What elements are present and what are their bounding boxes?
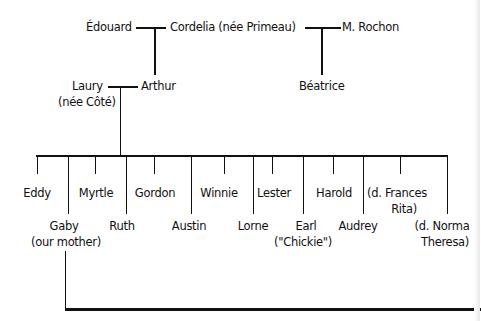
child-frances: (d. Frances (367, 186, 427, 200)
person-cordelia: Cordelia (née Primeau) (170, 20, 296, 34)
drop-austin (191, 155, 193, 214)
page-edge-shadow (474, 0, 480, 321)
drop-ruth (126, 155, 128, 214)
person-edouard: Édouard (86, 20, 132, 34)
drop-eddy (37, 155, 39, 174)
drop-norma (447, 155, 449, 214)
child-earl: Earl (295, 219, 316, 233)
sibling-bar (36, 155, 448, 157)
child-austin: Austin (172, 219, 206, 233)
child-norma-note: Theresa) (421, 235, 469, 249)
person-arthur: Arthur (141, 79, 176, 93)
child-lorne: Lorne (238, 219, 269, 233)
child-lester: Lester (257, 186, 291, 200)
person-laury-maiden: (née Côté) (58, 95, 116, 109)
descent-line-beatrice (321, 27, 323, 75)
drop-gordon (154, 155, 156, 174)
child-frances-note: Rita) (391, 202, 417, 216)
drop-frances (400, 155, 402, 174)
marriage-line-laury-arthur (108, 86, 138, 88)
child-gaby: Gaby (50, 219, 79, 233)
child-myrtle: Myrtle (79, 186, 113, 200)
drop-lester (272, 155, 274, 174)
drop-winnie (224, 155, 226, 174)
child-gordon: Gordon (135, 186, 175, 200)
person-beatrice: Béatrice (299, 79, 344, 93)
person-laury: Laury (72, 79, 103, 93)
marriage-line-edouard-cordelia (136, 27, 166, 29)
drop-audrey (363, 155, 365, 214)
gaby-descent-line (65, 251, 67, 310)
descent-line-arthur (154, 27, 156, 75)
marriage-line-cordelia-rochon (305, 27, 341, 29)
child-earl-note: ("Chickie") (274, 235, 332, 249)
child-ruth: Ruth (109, 219, 134, 233)
drop-harold (333, 155, 335, 174)
drop-gaby (68, 155, 70, 214)
child-norma: (d. Norma (415, 219, 470, 233)
person-m-rochon: M. Rochon (342, 20, 399, 34)
child-harold: Harold (316, 186, 352, 200)
drop-earl (303, 155, 305, 214)
child-gaby-note: (our mother) (31, 235, 101, 249)
child-audrey: Audrey (338, 219, 377, 233)
gaby-continuation-line (65, 308, 481, 311)
descent-line-children (120, 86, 122, 156)
drop-myrtle (95, 155, 97, 174)
drop-lorne (253, 155, 255, 214)
child-eddy: Eddy (23, 186, 50, 200)
child-winnie: Winnie (200, 186, 237, 200)
